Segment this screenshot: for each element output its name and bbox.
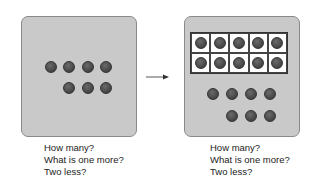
caption-line-one-more: What is one more? xyxy=(210,154,290,166)
ten-frame-cell xyxy=(229,53,248,73)
right-caption: How many? What is one more? Two less? xyxy=(210,142,290,178)
caption-line-how-many: How many? xyxy=(44,142,124,154)
counter-dot xyxy=(271,37,283,49)
counter-dot xyxy=(82,82,94,94)
right-arrow-icon xyxy=(146,74,170,80)
counter-dot xyxy=(245,110,257,122)
counter-dot xyxy=(100,82,112,94)
counter-dot xyxy=(226,110,238,122)
ten-frame-cell xyxy=(268,53,287,73)
counter-dot xyxy=(252,57,264,69)
ten-frame-cell xyxy=(229,33,248,53)
caption-line-two-less: Two less? xyxy=(210,166,290,178)
counter-dot xyxy=(195,57,207,69)
counter-dot xyxy=(207,88,219,100)
counter-dot xyxy=(233,57,245,69)
counter-dot xyxy=(245,88,257,100)
left-caption: How many? What is one more? Two less? xyxy=(44,142,124,178)
counter-dot xyxy=(264,110,276,122)
counter-dot xyxy=(214,57,226,69)
ten-frame-cell xyxy=(249,53,268,73)
ten-frame-cell xyxy=(210,33,229,53)
counter-dot xyxy=(233,37,245,49)
left-panel xyxy=(21,16,137,137)
ten-frame-cell xyxy=(268,33,287,53)
counter-dot xyxy=(63,82,75,94)
caption-line-how-many: How many? xyxy=(210,142,290,154)
counter-dot xyxy=(63,61,75,73)
counter-dot xyxy=(45,61,57,73)
ten-frame-cell xyxy=(191,53,210,73)
counter-dot xyxy=(195,37,207,49)
ten-frame xyxy=(190,32,288,74)
ten-frame-cell xyxy=(191,33,210,53)
ten-frame-cell xyxy=(210,53,229,73)
counter-dot xyxy=(252,37,264,49)
counter-dot xyxy=(264,88,276,100)
counter-dot xyxy=(100,61,112,73)
ten-frame-cell xyxy=(249,33,268,53)
caption-line-one-more: What is one more? xyxy=(44,154,124,166)
counter-dot xyxy=(271,57,283,69)
counter-dot xyxy=(214,37,226,49)
right-panel xyxy=(184,16,300,137)
caption-line-two-less: Two less? xyxy=(44,166,124,178)
counter-dot xyxy=(226,88,238,100)
counter-dot xyxy=(82,61,94,73)
